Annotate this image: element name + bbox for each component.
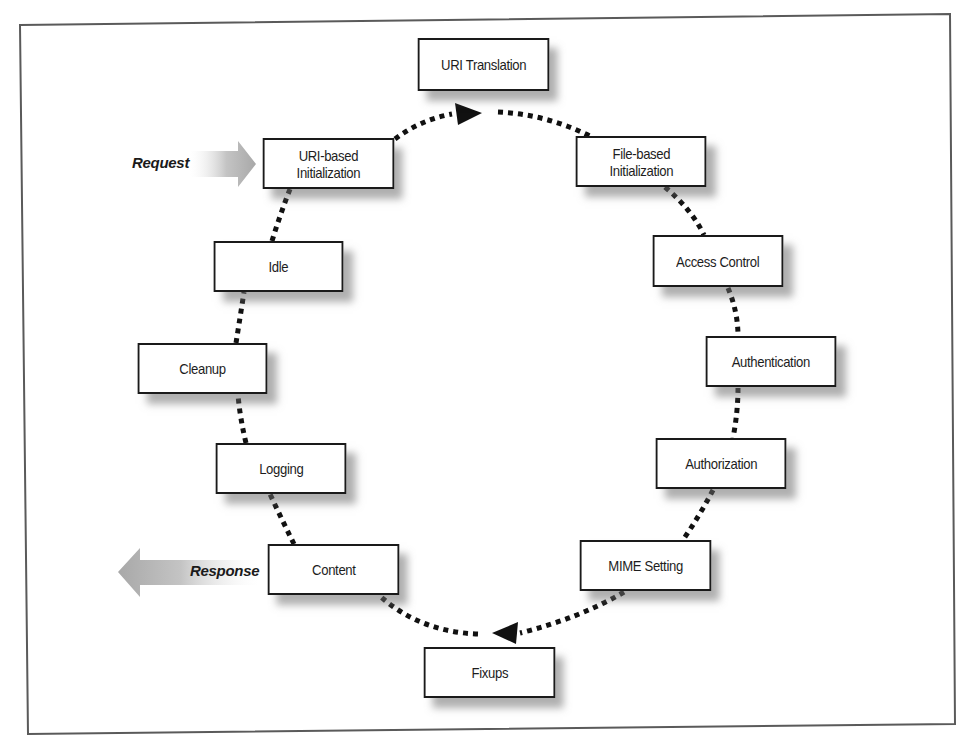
phase-idle: Idle xyxy=(214,241,344,292)
arrowhead-left-icon xyxy=(492,622,518,644)
phase-cleanup: Cleanup xyxy=(138,343,268,394)
phase-authorization: Authorization xyxy=(656,438,787,489)
phase-label: URI Translation xyxy=(441,56,526,73)
request-label: Request xyxy=(132,154,189,171)
phase-label: Logging xyxy=(259,460,303,477)
phase-authentication: Authentication xyxy=(706,336,837,387)
phase-label: Authentication xyxy=(732,353,810,370)
phase-label: Idle xyxy=(269,258,289,275)
phase-access-control: Access Control xyxy=(653,235,784,287)
phase-label: Cleanup xyxy=(179,360,225,377)
phase-label: Authorization xyxy=(685,455,757,472)
phase-label: Access Control xyxy=(676,253,759,270)
phase-label: MIME Setting xyxy=(608,557,682,574)
phase-label: File-based Initialization xyxy=(609,145,673,179)
phase-label: Fixups xyxy=(471,664,508,681)
diagram-stage: URI Translation File-based Initializatio… xyxy=(0,0,967,739)
response-label: Response xyxy=(190,562,259,579)
phase-mime-setting: MIME Setting xyxy=(580,540,712,591)
phase-uri-translation: URI Translation xyxy=(418,38,550,91)
phase-fixups: Fixups xyxy=(424,647,556,698)
phase-logging: Logging xyxy=(216,443,347,494)
arrowhead-right-icon xyxy=(455,103,482,125)
phase-label: URI-based Initialization xyxy=(297,147,361,181)
request-arrow-icon xyxy=(190,141,256,187)
phase-uri-based-initialization: URI-based Initialization xyxy=(263,138,395,189)
phase-content: Content xyxy=(268,544,400,595)
phase-label: Content xyxy=(312,561,355,578)
phase-file-based-initialization: File-based Initialization xyxy=(576,136,707,187)
